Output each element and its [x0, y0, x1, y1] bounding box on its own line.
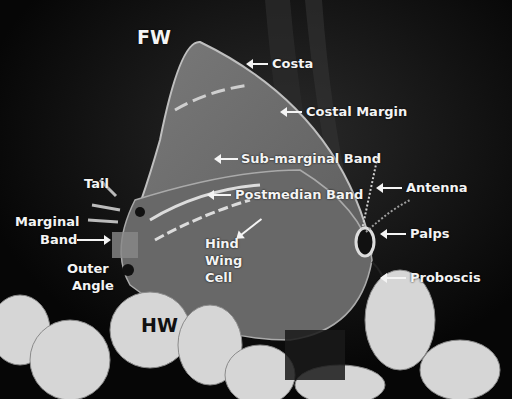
label-costal-margin: Costal Margin	[306, 104, 407, 119]
arrow-proboscis	[386, 277, 406, 279]
label-costa: Costa	[272, 56, 313, 71]
label-postmedian-band: Postmedian Band	[235, 187, 363, 202]
label-tail: Tail	[84, 176, 109, 191]
label-proboscis: Proboscis	[410, 270, 481, 285]
label-hindwing: HW	[141, 315, 178, 335]
arrow-sub-marginal-band	[220, 158, 238, 160]
label-hind-wing-cell-line2: Wing	[205, 253, 242, 268]
arrow-antenna	[382, 187, 402, 189]
label-antenna: Antenna	[406, 180, 468, 195]
label-marginal-band-line1: Marginal	[15, 214, 79, 229]
label-outer-angle-line1: Outer	[67, 261, 109, 276]
label-forewing: FW	[137, 27, 171, 47]
arrow-costa	[252, 63, 268, 65]
label-sub-marginal-band: Sub-marginal Band	[241, 151, 381, 166]
label-marginal-band-line2: Band	[40, 232, 77, 247]
label-palps: Palps	[410, 226, 449, 241]
arrow-palps	[386, 233, 406, 235]
label-outer-angle-line2: Angle	[72, 278, 114, 293]
butterfly-photo: FW HW Costa Costal Margin Sub-marginal B…	[0, 0, 512, 399]
arrow-costal-margin	[286, 111, 302, 113]
arrow-marginal-band	[77, 239, 105, 241]
label-hind-wing-cell-line1: Hind	[205, 236, 239, 251]
arrow-postmedian-band	[213, 194, 231, 196]
label-hind-wing-cell-line3: Cell	[205, 270, 232, 285]
